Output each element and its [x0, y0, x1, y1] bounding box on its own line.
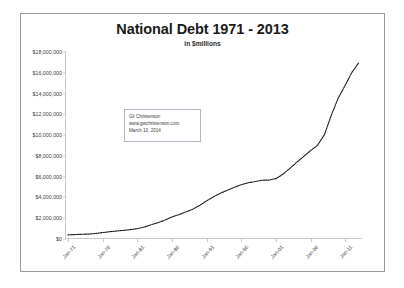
y-axis-tick-label: $14,000,000 — [33, 91, 62, 97]
x-axis-tick-label: Jan-81 — [130, 244, 145, 260]
y-axis-tick-label: $18,000,000 — [33, 49, 62, 55]
chart-frame: National Debt 1971 - 2013 in $millions $… — [20, 13, 385, 272]
y-axis-tick-label: $8,000,000 — [35, 153, 62, 159]
plot-area: $18,000,000$16,000,000$14,000,000$12,000… — [65, 52, 362, 239]
x-axis-tick-label: Jan-11 — [339, 244, 354, 259]
y-axis-tick-label: $10,000,000 — [33, 132, 62, 138]
annotation-box: Gil Christenson www.gwchristenson.com Ma… — [124, 109, 201, 142]
y-axis-tick-label: $16,000,000 — [33, 70, 62, 76]
annotation-author: Gil Christenson — [129, 113, 196, 120]
debt-line — [68, 62, 359, 234]
x-axis-tick-label: Jan-91 — [200, 244, 215, 260]
x-axis-tick-label: Jan-76 — [96, 244, 111, 260]
debt-line-series — [65, 52, 362, 239]
annotation-website: www.gwchristenson.com — [129, 120, 196, 127]
annotation-date: March 10, 2014 — [129, 127, 196, 134]
y-axis-tick-label: $4,000,000 — [35, 194, 62, 200]
x-axis-tick-label: Jan-96 — [234, 244, 249, 260]
y-axis-tick-label: $0 — [56, 236, 62, 242]
x-axis-tick-label: Jan-86 — [165, 244, 180, 260]
chart-subtitle: in $millions — [21, 40, 384, 47]
y-axis-tick-label: $6,000,000 — [35, 174, 62, 180]
x-axis-tick-label: Jan-06 — [304, 244, 319, 260]
chart-title: National Debt 1971 - 2013 — [21, 21, 384, 37]
x-axis-tick-label: Jan-71 — [61, 244, 76, 260]
y-axis-tick-label: $12,000,000 — [33, 111, 62, 117]
x-axis-tick-label: Jan-01 — [269, 244, 284, 260]
y-axis-tick-label: $2,000,000 — [35, 215, 62, 221]
